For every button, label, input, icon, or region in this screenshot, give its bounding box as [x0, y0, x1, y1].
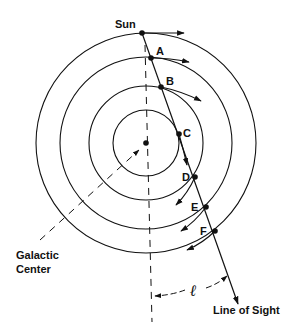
- galactic-center-label-line2: Center: [16, 263, 52, 275]
- longitude-arc-right: [206, 276, 227, 288]
- points: [139, 30, 218, 234]
- point-a-label: A: [156, 45, 164, 57]
- point-b: [158, 84, 164, 90]
- point-d: [192, 174, 198, 180]
- galactic-center-label-line1: Galactic: [16, 249, 59, 261]
- line-of-sight-label: Line of Sight: [213, 304, 280, 316]
- galactic-center-dot: [143, 140, 149, 146]
- longitude-arc-left: [155, 290, 185, 296]
- point-d-label: D: [182, 171, 190, 183]
- line-of-sight: [142, 33, 238, 304]
- point-a: [148, 55, 154, 61]
- point-b-label: B: [166, 75, 174, 87]
- point-e: [203, 204, 209, 210]
- longitude-symbol: ℓ: [189, 282, 197, 299]
- b-velocity-arrow: [161, 87, 201, 101]
- sun-point: [139, 30, 145, 36]
- point-c-label: C: [183, 127, 191, 139]
- point-f-label: F: [200, 225, 207, 237]
- point-c: [176, 131, 182, 137]
- galactic-rotation-diagram: Sun A B C D E F Galactic Center Line of …: [0, 0, 298, 331]
- point-f: [212, 228, 218, 234]
- sun-label: Sun: [115, 18, 136, 30]
- point-e-label: E: [191, 201, 198, 213]
